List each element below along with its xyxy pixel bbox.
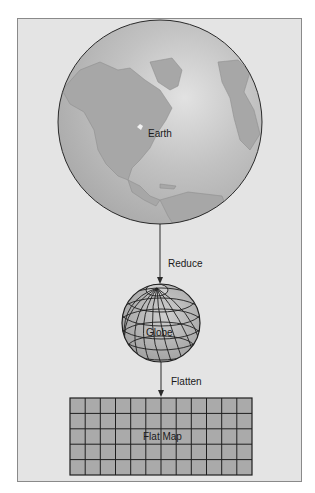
reduce-label: Reduce	[168, 258, 202, 269]
globe-sphere	[119, 284, 203, 364]
earth-label: Earth	[148, 128, 172, 139]
globe-label: Globe	[146, 327, 173, 338]
flatten-label: Flatten	[171, 376, 202, 387]
reduce-arrow	[157, 224, 163, 284]
flatten-arrow	[158, 362, 164, 397]
flat-map-label: Flat Map	[143, 431, 182, 442]
diagram-artwork	[0, 0, 315, 493]
